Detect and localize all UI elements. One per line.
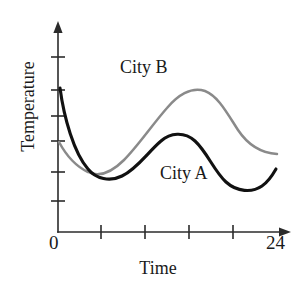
y-axis-label: Temperature <box>18 47 39 167</box>
x-axis-label: Time <box>103 258 213 279</box>
series-line-city-b <box>59 90 277 175</box>
x-axis-tick-label-min: 0 <box>49 232 59 254</box>
series-label-city-a: City A <box>160 163 208 184</box>
series-label-city-b: City B <box>120 57 168 78</box>
y-axis-arrow-icon <box>53 21 62 33</box>
chart-figure: Temperature Time 0 24 City B City A <box>0 0 303 298</box>
y-axis <box>51 21 65 232</box>
chart-plot-area <box>0 0 303 298</box>
x-axis <box>58 225 291 239</box>
x-axis-tick-label-max: 24 <box>266 232 285 254</box>
